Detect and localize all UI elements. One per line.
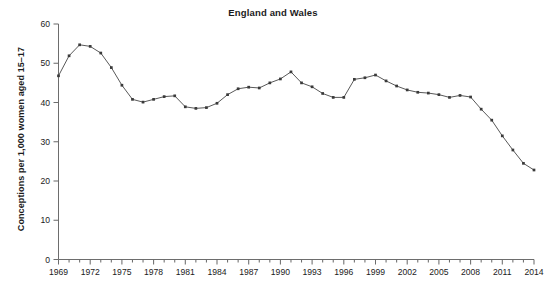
data-point — [195, 107, 198, 110]
x-tick-label: 1996 — [334, 267, 353, 277]
y-tick-label: 50 — [40, 58, 50, 68]
data-point — [416, 91, 419, 94]
data-point — [237, 87, 240, 90]
data-point — [300, 82, 303, 85]
data-point — [501, 135, 504, 138]
series-markers — [57, 43, 535, 171]
data-point — [226, 93, 229, 96]
data-point — [469, 96, 472, 99]
x-tick-marks — [59, 260, 535, 265]
x-tick-label: 2002 — [398, 267, 417, 277]
data-point — [459, 94, 462, 97]
x-tick-label: 2014 — [524, 267, 543, 277]
data-point — [427, 92, 430, 95]
data-point — [321, 92, 324, 95]
data-point — [173, 94, 176, 97]
x-tick-label: 1987 — [239, 267, 258, 277]
data-point — [395, 85, 398, 88]
y-tick-label: 30 — [40, 137, 50, 147]
data-point — [364, 76, 367, 79]
data-point — [512, 149, 515, 152]
x-tick-label: 1984 — [207, 267, 226, 277]
x-tick-label: 2011 — [493, 267, 512, 277]
data-point — [490, 119, 493, 122]
data-point — [68, 54, 71, 57]
data-point — [311, 85, 314, 88]
x-tick-label: 2005 — [429, 267, 448, 277]
y-tick-label: 20 — [40, 176, 50, 186]
x-axis: 1969197219751978198119841987199019931996… — [49, 260, 544, 278]
x-tick-label: 1969 — [49, 267, 68, 277]
data-point — [406, 89, 409, 92]
data-point — [374, 74, 377, 77]
data-point — [110, 66, 113, 69]
data-point — [205, 106, 208, 109]
data-point — [480, 108, 483, 111]
data-point — [131, 98, 134, 101]
data-point — [279, 78, 282, 81]
x-tick-label: 1975 — [112, 267, 131, 277]
data-point — [142, 101, 145, 104]
y-tick-label: 40 — [40, 98, 50, 108]
x-tick-label: 1972 — [81, 267, 100, 277]
x-tick-label: 1990 — [271, 267, 290, 277]
y-tick-label: 10 — [40, 215, 50, 225]
x-tick-label: 1981 — [176, 267, 195, 277]
y-axis: 0102030405060 — [40, 19, 58, 265]
data-point — [533, 169, 536, 172]
y-tick-marks — [54, 24, 59, 260]
data-point — [99, 52, 102, 55]
series-line — [59, 45, 535, 170]
data-point — [152, 98, 155, 101]
data-series-conceptions — [57, 43, 535, 171]
data-point — [353, 78, 356, 81]
chart-figure: England and Wales Conceptions per 1,000 … — [0, 0, 546, 289]
data-point — [290, 71, 293, 74]
line-chart-plot: 0102030405060 19691972197519781981198419… — [0, 0, 546, 289]
x-tick-label: 2008 — [461, 267, 480, 277]
data-point — [342, 96, 345, 99]
data-point — [184, 105, 187, 108]
y-tick-labels: 0102030405060 — [40, 19, 50, 265]
data-point — [258, 87, 261, 90]
data-point — [57, 74, 60, 77]
y-tick-label: 60 — [40, 19, 50, 29]
data-point — [448, 96, 451, 99]
x-tick-label: 1978 — [144, 267, 163, 277]
data-point — [332, 96, 335, 99]
x-tick-label: 1993 — [303, 267, 322, 277]
x-tick-label: 1999 — [366, 267, 385, 277]
data-point — [78, 43, 81, 46]
data-point — [163, 95, 166, 98]
x-tick-labels: 1969197219751978198119841987199019931996… — [49, 267, 544, 277]
data-point — [247, 86, 250, 89]
y-tick-label: 0 — [45, 255, 50, 265]
data-point — [216, 102, 219, 105]
data-point — [121, 84, 124, 87]
data-point — [385, 80, 388, 83]
data-point — [438, 93, 441, 96]
data-point — [268, 82, 271, 85]
data-point — [522, 162, 525, 165]
data-point — [89, 45, 92, 48]
